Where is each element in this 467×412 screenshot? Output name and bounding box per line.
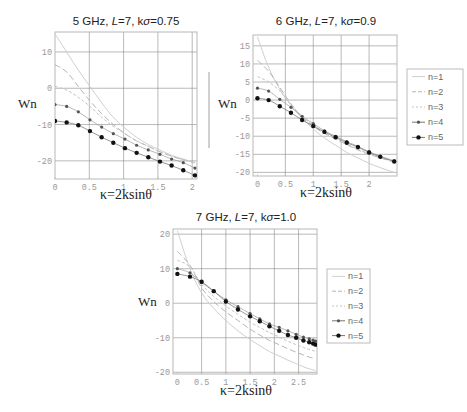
plot-frame [173,229,317,374]
data-point-marker [170,157,173,160]
data-point-marker [286,333,290,337]
plot-title-5ghz: 5 GHz, L=7, kσ=0.75 [73,15,180,27]
y-tick-label: -20 [155,368,170,378]
grid [173,229,317,374]
series-line-n1 [257,37,394,173]
data-point-marker [266,98,270,102]
data-point-marker [88,118,91,121]
data-point-marker [99,135,103,139]
y-tick-label: -20 [235,168,250,178]
y-tick-label: 20 [160,230,170,240]
data-point-marker [278,98,281,101]
y-tick-label: -10 [155,334,170,344]
data-point-marker [100,125,103,128]
data-point-marker [301,115,304,118]
series-group [175,231,318,371]
data-point-marker [267,89,270,92]
data-point-marker [188,271,191,274]
data-point-marker [111,141,115,145]
x-tick-label: 0.5 [82,183,97,193]
plot-6ghz: 00.511.52-20-15-10-5051015 [235,35,397,190]
data-point-marker [123,137,126,140]
data-point-marker [333,135,337,139]
x-tick-label: 2 [272,378,277,388]
figure: 00.511.52-20-10010 00.511.52-20-15-10-50… [0,0,467,412]
data-point-marker [301,338,305,342]
x-tick-label: 1.5 [150,183,165,193]
data-point-marker [188,274,192,278]
data-point-marker [182,161,185,164]
legend-label: n=3 [348,301,363,311]
x-axis-label-7ghz: κ=2ksinθ [220,383,272,398]
x-axis-label-6ghz: κ=2ksinθ [300,185,352,200]
series-line-n3 [257,77,394,162]
data-point-marker [295,333,298,336]
y-tick-label: -15 [235,150,250,160]
data-point-marker [322,130,326,134]
y-tick-label: 10 [160,265,170,275]
series-line-n5 [257,98,394,161]
data-point-marker [181,168,185,172]
data-point-marker [236,307,240,311]
data-point-marker [289,106,292,109]
data-point-marker [248,314,252,318]
data-point-marker [88,129,92,133]
data-point-marker [311,124,315,128]
data-point-marker [302,335,305,338]
data-point-marker [76,123,80,127]
legend: n=1n=2n=3n=4n=5 [407,69,463,145]
data-point-marker [169,163,173,167]
y-tick-label: 10 [42,48,52,58]
x-tick-label: 2 [367,180,372,190]
y-axis-label-5ghz: Wn [18,96,37,111]
data-point-marker [378,155,382,159]
y-tick-label: 0 [245,96,250,106]
data-point-marker [112,132,115,135]
data-point-marker [193,173,197,177]
data-point-marker [308,337,311,340]
series-group [255,37,396,173]
y-axis-label-6ghz: Wn [218,96,237,111]
data-point-marker [64,120,68,124]
data-point-marker [289,111,293,115]
series-group [53,34,197,178]
legend-label: n=5 [348,331,363,341]
y-tick-label: 5 [245,78,250,88]
x-tick-label: 0.5 [278,180,293,190]
legend-label: n=2 [428,87,443,97]
data-point-marker [158,153,161,156]
x-tick-label: 0.5 [194,378,209,388]
data-point-marker [278,104,282,108]
data-point-marker [307,340,311,344]
legend-label: n=1 [348,271,363,281]
legend-label: n=4 [428,117,443,127]
plot-title-7ghz: 7 GHz, L=7, kσ=1.0 [196,211,296,223]
data-point-marker [135,144,138,147]
data-point-marker [147,148,150,151]
x-tick-label: 0 [175,378,180,388]
y-tick-label: -10 [235,132,250,142]
legend-label: n=5 [428,132,443,142]
data-point-marker [199,280,203,284]
series-line-n2 [177,251,315,358]
data-point-marker [123,146,127,150]
legend-label: n=2 [348,286,363,296]
y-tick-label: 0 [47,84,52,94]
x-tick-label: 0 [255,180,260,190]
data-point-marker [277,329,281,333]
y-tick-label: 0 [165,299,170,309]
x-axis-label-5ghz: κ=2ksinθ [100,187,152,202]
x-tick-label: 2 [190,183,195,193]
data-point-marker [392,159,396,163]
data-point-marker [286,329,289,332]
data-point-marker [53,119,57,123]
data-point-marker [146,155,150,159]
plot-5ghz: 00.511.52-20-10010 [37,32,197,193]
series-line-n1 [177,231,315,371]
plot-title-6ghz: 6 GHz, L=7, kσ=0.9 [276,15,376,27]
series-line-n1 [55,34,195,163]
data-point-marker [255,96,259,100]
y-tick-label: -10 [37,121,52,131]
data-point-marker [77,110,80,113]
data-point-marker [176,267,179,270]
